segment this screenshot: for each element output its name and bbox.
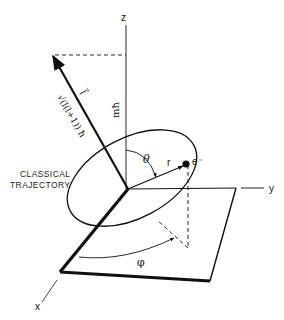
electron-dot xyxy=(182,160,189,167)
electron-label: e⁻ xyxy=(192,156,203,167)
l-vector-label: l⃗ xyxy=(77,87,90,97)
classical-trajectory-caption-line1: CLASSICAL xyxy=(20,169,70,179)
z-axis-label: z xyxy=(121,12,126,23)
projection-lines xyxy=(55,55,188,248)
phi-arc xyxy=(79,238,174,258)
x-axis-label: x xyxy=(35,301,40,312)
axes xyxy=(42,25,264,302)
l-magnitude-label: √(l(l+1)) ħ xyxy=(55,93,87,139)
theta-arc xyxy=(126,150,156,177)
classical-trajectory-caption-line2: TRAJECTORY xyxy=(10,180,70,190)
r-vector-arrow xyxy=(128,166,183,189)
m-hbar-label: mħ xyxy=(110,102,121,118)
angular-momentum-diagram: z y x mħ l⃗ √(l(l+1)) ħ θ r e⁻ φ CLASSIC… xyxy=(0,0,284,320)
y-axis-label: y xyxy=(269,183,274,194)
phi-label: φ xyxy=(137,256,145,269)
xy-plane xyxy=(60,188,236,281)
x-axis xyxy=(42,280,57,302)
theta-label: θ xyxy=(143,153,150,166)
r-label: r xyxy=(167,157,171,168)
